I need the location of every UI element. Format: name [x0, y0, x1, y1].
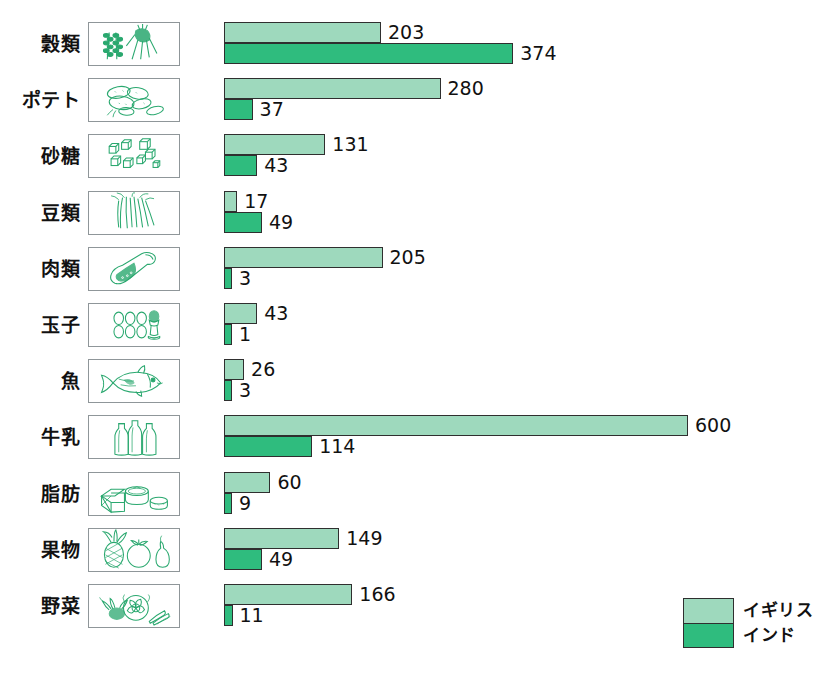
bar-india: [224, 155, 257, 176]
bar-value-uk: 203: [388, 22, 424, 43]
chart-row: 豆類 1749: [0, 191, 823, 247]
row-label: 野菜: [8, 584, 80, 628]
row-bars: 431: [224, 303, 823, 353]
bar-uk: [224, 584, 352, 605]
bar-uk: [224, 78, 441, 99]
legend-swatch-stack: [683, 598, 734, 648]
bar-value-uk: 26: [251, 359, 275, 380]
bar-value-india: 114: [319, 436, 355, 457]
chart-row: 牛乳 600114: [0, 415, 823, 471]
row-label: ポテト: [8, 78, 80, 122]
row-label: 牛乳: [8, 415, 80, 459]
row-label: 玉子: [8, 303, 80, 347]
bar-india: [224, 99, 253, 120]
fat-icon: [88, 472, 180, 516]
bar-value-india: 37: [260, 99, 284, 120]
bar-india: [224, 380, 232, 401]
chart-row: 魚 263: [0, 359, 823, 415]
bar-uk: [224, 191, 237, 212]
legend-label-india: インド: [743, 623, 796, 648]
bar-value-uk: 131: [332, 134, 368, 155]
milk-icon: [88, 415, 180, 459]
bar-uk: [224, 134, 325, 155]
bar-value-india: 43: [264, 155, 288, 176]
legend-swatch-india: [684, 623, 733, 647]
bar-india: [224, 436, 312, 457]
grain-icon: [88, 22, 180, 66]
eggs-icon: [88, 303, 180, 347]
legend-label-uk: イギリス: [743, 598, 813, 623]
row-bars: 600114: [224, 415, 823, 465]
fish-icon: [88, 359, 180, 403]
bar-value-uk: 600: [695, 415, 731, 436]
potato-icon: [88, 78, 180, 122]
bar-value-india: 3: [239, 268, 251, 289]
chart-row: 砂糖 1314: [0, 134, 823, 190]
bar-value-uk: 60: [277, 472, 301, 493]
bar-value-india: 374: [520, 43, 556, 64]
bar-india: [224, 212, 262, 233]
row-bars: 1749: [224, 191, 823, 241]
meat-icon: [88, 247, 180, 291]
row-bars: 203374: [224, 22, 823, 72]
bar-value-uk: 43: [264, 303, 288, 324]
sugar-icon: [88, 134, 180, 178]
chart-row: 脂肪 609: [0, 472, 823, 528]
bar-india: [224, 268, 232, 289]
row-label: 砂糖: [8, 134, 80, 178]
bar-india: [224, 43, 513, 64]
chart-row: 肉類 2053: [0, 247, 823, 303]
row-bars: 2053: [224, 247, 823, 297]
row-bars: 263: [224, 359, 823, 409]
row-bars: 14949: [224, 528, 823, 578]
bar-value-india: 1: [239, 324, 251, 345]
bar-value-india: 11: [240, 605, 264, 626]
bar-value-india: 3: [239, 380, 251, 401]
bar-uk: [224, 415, 688, 436]
bar-value-uk: 205: [390, 247, 426, 268]
bar-india: [224, 324, 232, 345]
chart-row: 穀類 203374: [0, 22, 823, 78]
vegetable-icon: [88, 584, 180, 628]
bar-value-uk: 166: [359, 584, 395, 605]
bar-value-uk: 280: [448, 78, 484, 99]
fruit-icon: [88, 528, 180, 572]
bar-uk: [224, 247, 383, 268]
row-bars: 28037: [224, 78, 823, 128]
chart-row: ポテト 28037: [0, 78, 823, 134]
bar-value-uk: 17: [244, 191, 268, 212]
bar-uk: [224, 22, 381, 43]
chart-legend: イギリス インド: [683, 598, 823, 650]
bar-value-uk: 149: [346, 528, 382, 549]
bar-india: [224, 549, 262, 570]
bar-value-india: 49: [269, 212, 293, 233]
bar-india: [224, 605, 233, 626]
beans-icon: [88, 191, 180, 235]
bar-india: [224, 493, 232, 514]
row-label: 肉類: [8, 247, 80, 291]
row-label: 穀類: [8, 22, 80, 66]
bar-uk: [224, 303, 257, 324]
row-label: 豆類: [8, 191, 80, 235]
bar-uk: [224, 359, 244, 380]
row-bars: 609: [224, 472, 823, 522]
row-label: 脂肪: [8, 472, 80, 516]
bar-chart: 穀類 203374ポテト: [0, 0, 823, 682]
bar-value-india: 49: [269, 549, 293, 570]
bar-uk: [224, 528, 339, 549]
chart-row: 玉子 431: [0, 303, 823, 359]
row-label: 果物: [8, 528, 80, 572]
bar-uk: [224, 472, 270, 493]
chart-row: 果物 14949: [0, 528, 823, 584]
row-bars: 13143: [224, 134, 823, 184]
legend-swatch-uk: [684, 599, 733, 623]
row-label: 魚: [8, 359, 80, 403]
bar-value-india: 9: [239, 493, 251, 514]
